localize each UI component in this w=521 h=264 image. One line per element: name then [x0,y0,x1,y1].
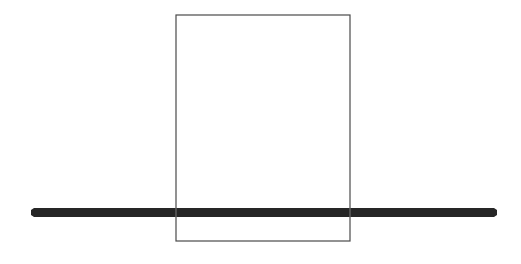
drawing-canvas [0,0,521,264]
canvas-background [0,0,521,264]
horizontal-bar [31,208,497,217]
figure-svg [0,0,521,264]
